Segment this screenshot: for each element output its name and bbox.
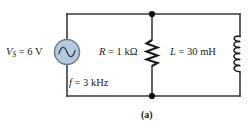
resistor-quantity: R — [99, 46, 105, 57]
inductor-loop-6 — [234, 65, 240, 71]
source-label: VS = 6 V — [6, 47, 43, 59]
inductor-loop-3 — [234, 47, 240, 53]
junction-dot-top — [149, 11, 155, 17]
resistor-label: R = 1 kΩ — [99, 47, 138, 58]
frequency-label: f = 3 kHz — [69, 78, 108, 89]
inductor-equals: = — [178, 46, 184, 57]
resistor-equals: = — [108, 46, 114, 57]
source-unit: V — [35, 46, 43, 57]
inductor-loop-2 — [234, 41, 240, 47]
frequency-value: 3 — [83, 77, 88, 88]
inductor-loop-1 — [234, 36, 240, 41]
frequency-quantity: f — [69, 77, 72, 88]
resistor-value: 1 — [117, 46, 122, 57]
inductor-unit: mH — [200, 46, 216, 57]
inductor-loop-4 — [234, 53, 240, 59]
inductor-loop-5 — [234, 59, 240, 65]
inductor-quantity: L — [170, 46, 176, 57]
circuit-schematic — [0, 0, 252, 127]
junction-dot-bottom — [149, 93, 155, 99]
figure-canvas: VS = 6 V f = 3 kHz R = 1 kΩ L = 30 mH (a… — [0, 0, 252, 127]
inductor-symbol — [234, 36, 240, 72]
inductor-label: L = 30 mH — [170, 47, 216, 58]
resistor-zigzag — [147, 40, 158, 66]
frequency-equals: = — [75, 77, 81, 88]
resistor-unit: kΩ — [124, 46, 137, 57]
resistor-symbol — [147, 40, 158, 66]
frequency-unit: kHz — [91, 77, 109, 88]
inductor-value: 30 — [187, 46, 198, 57]
source-subscript: S — [12, 50, 16, 59]
ac-source-symbol — [55, 40, 80, 65]
source-value: 6 — [27, 46, 32, 57]
figure-caption: (a) — [141, 110, 153, 120]
source-equals: = — [19, 46, 25, 57]
